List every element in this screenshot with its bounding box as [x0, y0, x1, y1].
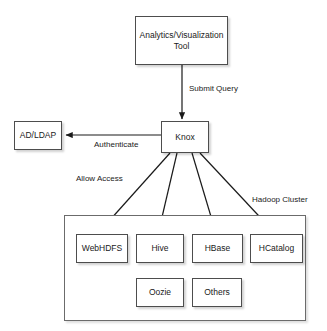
edge-label-allow-access: Allow Access: [76, 174, 123, 183]
edge-label-authenticate: Authenticate: [94, 140, 138, 149]
edge-label-submit-query: Submit Query: [189, 84, 238, 93]
node-knox[interactable]: Knox: [161, 121, 209, 153]
edge-label-hadoop-cluster: Hadoop Cluster: [252, 195, 308, 204]
node-hive[interactable]: Hive: [136, 234, 184, 263]
node-analytics-visualization-tool[interactable]: Analytics/Visualization Tool: [135, 16, 228, 65]
diagram-canvas: Analytics/Visualization Tool Knox AD/LDA…: [0, 0, 327, 331]
node-ad-ldap[interactable]: AD/LDAP: [14, 121, 62, 150]
node-oozie[interactable]: Oozie: [136, 278, 184, 307]
node-others[interactable]: Others: [192, 278, 242, 307]
node-hbase[interactable]: HBase: [192, 234, 243, 263]
hadoop-cluster-container: [64, 215, 306, 321]
node-webhdfs[interactable]: WebHDFS: [76, 234, 128, 263]
node-hcatalog[interactable]: HCatalog: [250, 234, 303, 263]
